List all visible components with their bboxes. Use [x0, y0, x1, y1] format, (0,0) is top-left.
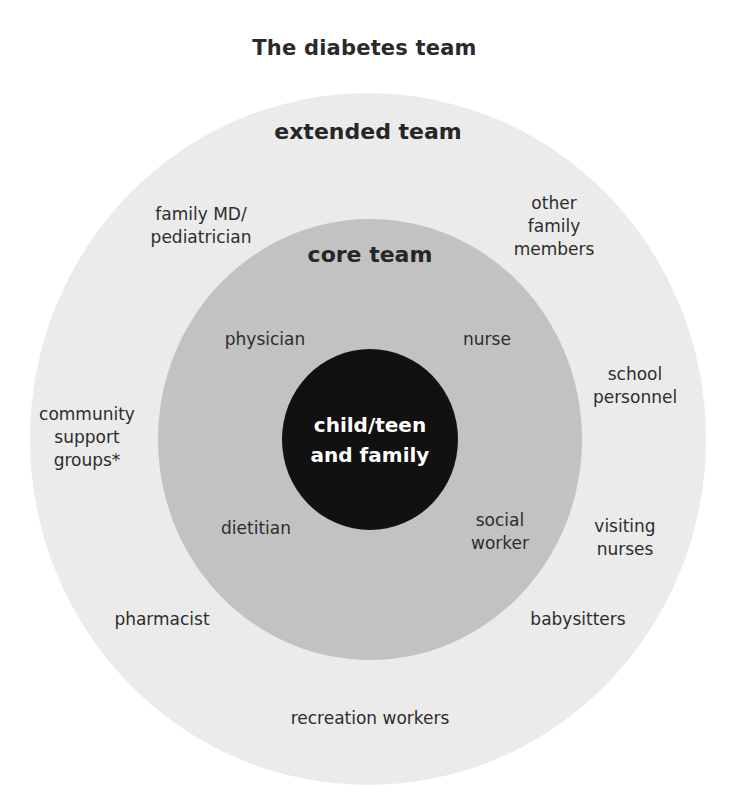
core-member-physician: physician	[225, 328, 305, 351]
extended-member-other-family: other family members	[514, 192, 595, 261]
extended-member-pharmacist: pharmacist	[114, 608, 209, 631]
extended-member-recreation-workers: recreation workers	[291, 707, 450, 730]
extended-member-babysitters: babysitters	[530, 608, 625, 631]
diagram-title: The diabetes team	[0, 36, 729, 60]
extended-member-family-md: family MD/ pediatrician	[151, 203, 252, 249]
extended-member-visiting-nurses: visiting nurses	[594, 515, 655, 561]
extended-team-heading: extended team	[274, 120, 462, 143]
core-member-social-worker: social worker	[471, 509, 529, 555]
core-member-dietitian: dietitian	[221, 517, 291, 540]
extended-member-community-groups: community support groups*	[39, 403, 135, 472]
center-label: child/teen and family	[311, 410, 430, 470]
core-team-heading: core team	[308, 243, 433, 266]
core-member-nurse: nurse	[463, 328, 511, 351]
extended-member-school-personnel: school personnel	[593, 363, 677, 409]
